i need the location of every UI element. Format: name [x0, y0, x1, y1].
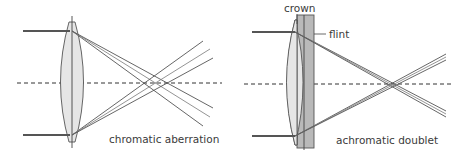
chromatic-aberration-diagram: chromatic aberration [17, 16, 222, 148]
achromatic-doublet-diagram: crown flint achromatic doublet [244, 2, 452, 150]
label-flint: flint [329, 28, 349, 40]
refracted-rays-bottom [72, 41, 213, 135]
label-crown: crown [284, 2, 316, 14]
caption-chromatic-aberration: chromatic aberration [109, 133, 219, 145]
refracted-rays-top [72, 31, 213, 126]
crown-element-left-face [287, 20, 298, 145]
refracted-rays-top-right [295, 32, 446, 117]
optics-diagram: chromatic aberration crown flint a [0, 0, 465, 154]
refracted-rays-bottom-right [295, 54, 446, 136]
caption-achromatic-doublet: achromatic doublet [336, 134, 438, 146]
